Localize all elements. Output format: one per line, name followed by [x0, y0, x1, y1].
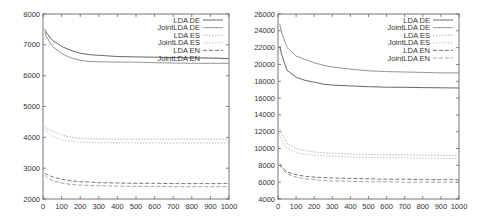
x-tick-label: 800	[186, 202, 199, 211]
y-tick-label: 8000	[258, 161, 275, 170]
x-tick-label: 500	[362, 202, 375, 211]
series-line-jointlda-en	[45, 175, 229, 187]
y-tick-label: 2000	[23, 195, 40, 204]
x-tick-label: 300	[93, 202, 106, 211]
x-tick-label: 800	[417, 202, 430, 211]
y-tick-label: 24000	[254, 26, 275, 35]
y-tick-label: 3000	[23, 164, 40, 173]
x-tick-label: 0	[41, 202, 45, 211]
x-tick-label: 600	[148, 202, 161, 211]
x-tick-label: 600	[380, 202, 393, 211]
y-tick-label: 6000	[23, 71, 40, 80]
series-line-lda-de	[280, 46, 459, 88]
y-tick-label: 18000	[254, 77, 275, 86]
y-tick-label: 8000	[23, 10, 40, 19]
y-tick-label: 20000	[254, 60, 275, 69]
x-tick-label: 900	[204, 202, 217, 211]
legend-label: JointLDA EN	[387, 54, 430, 63]
x-tick-label: 0	[276, 202, 280, 211]
y-tick-label: 5000	[23, 102, 40, 111]
x-tick-label: 400	[111, 202, 124, 211]
y-tick-label: 14000	[254, 110, 275, 119]
y-tick-label: 10000	[254, 144, 275, 153]
x-tick-label: 500	[130, 202, 143, 211]
series-line-lda-es	[45, 127, 229, 140]
x-tick-label: 900	[435, 202, 448, 211]
x-tick-label: 200	[74, 202, 87, 211]
y-tick-label: 6000	[258, 178, 275, 187]
series-line-lda-de	[45, 29, 229, 58]
series-line-lda-en	[45, 173, 229, 184]
x-tick-label: 1000	[451, 202, 468, 211]
plot-frame	[43, 14, 229, 199]
x-tick-label: 700	[167, 202, 180, 211]
y-tick-label: 7000	[23, 40, 40, 49]
chart-left-perplexity: 2000300040005000600070008000010020030040…	[0, 0, 244, 219]
x-tick-label: 200	[308, 202, 321, 211]
series-line-jointlda-es	[45, 129, 229, 143]
plot-frame	[278, 14, 459, 199]
x-tick-label: 100	[290, 202, 303, 211]
x-tick-label: 400	[344, 202, 357, 211]
x-tick-label: 700	[398, 202, 411, 211]
chart-right-svg: 4000600080001000012000140001600018000200…	[244, 0, 488, 219]
y-tick-label: 12000	[254, 127, 275, 136]
y-tick-label: 26000	[254, 10, 275, 19]
legend-label: JointLDA EN	[157, 54, 200, 63]
y-tick-label: 4000	[258, 195, 275, 204]
series-line-lda-en	[280, 164, 459, 180]
x-tick-label: 1000	[221, 202, 238, 211]
y-tick-label: 4000	[23, 133, 40, 142]
y-tick-label: 22000	[254, 43, 275, 52]
chart-right-perplexity: 4000600080001000012000140001600018000200…	[244, 0, 488, 219]
series-line-jointlda-de	[45, 32, 229, 63]
chart-left-svg: 2000300040005000600070008000010020030040…	[0, 0, 244, 219]
series-line-jointlda-de	[280, 24, 459, 73]
series-line-lda-es	[280, 129, 459, 155]
x-tick-label: 100	[55, 202, 68, 211]
y-tick-label: 16000	[254, 94, 275, 103]
x-tick-label: 300	[326, 202, 339, 211]
